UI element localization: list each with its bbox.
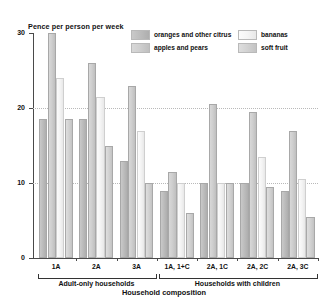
bar-2A-oranges-and-other-citrus [79,119,87,258]
bar-1A-1-C-bananas [177,183,185,258]
bar-2A-apples-and-pears [88,63,96,258]
bar-1A-oranges-and-other-citrus [39,119,47,258]
bar-3A-soft-fruit [145,183,153,258]
x-tick-3 [197,258,198,261]
bar-2A-3C-soft-fruit [306,217,314,258]
x-tick-4 [237,258,238,261]
bracket-1 [159,274,318,279]
bar-2A-1C-soft-fruit [226,183,234,258]
bar-1A-apples-and-pears [48,33,56,258]
bar-1A-1-C-oranges-and-other-citrus [160,191,168,259]
x-tick-label-2A-2C: 2A, 2C [237,263,277,270]
x-tick-5 [278,258,279,261]
bar-2A-2C-apples-and-pears [249,112,257,258]
bar-chart: Pence per person per week oranges and ot… [0,0,328,302]
y-tick-10 [29,183,33,184]
x-tick-label-2A-1C: 2A, 1C [197,263,237,270]
bracket-label-1: Households with children [159,280,316,287]
bar-3A-apples-and-pears [128,86,136,259]
bar-3A-bananas [137,131,145,259]
y-tick-label-0: 0 [9,254,25,261]
y-tick-label-10: 10 [9,179,25,186]
bar-1A-1-C-apples-and-pears [168,172,176,258]
y-tick-0 [29,258,33,259]
x-axis-title: Household composition [0,288,328,297]
x-tick-label-1A-1-C: 1A, 1+C [157,263,197,270]
bar-1A-1-C-soft-fruit [186,213,194,258]
y-axis-line [33,33,34,258]
x-tick-1 [117,258,118,261]
x-tick-label-2A: 2A [76,263,116,270]
gridline-20 [33,108,318,109]
x-tick-label-3A: 3A [117,263,157,270]
bar-1A-bananas [56,78,64,258]
bar-2A-soft-fruit [105,146,113,259]
bar-2A-2C-bananas [258,157,266,258]
bar-2A-2C-soft-fruit [266,187,274,258]
x-tick-label-2A-3C: 2A, 3C [278,263,318,270]
bar-2A-bananas [96,97,104,258]
bar-1A-soft-fruit [65,119,73,258]
bar-2A-3C-apples-and-pears [289,131,297,259]
bar-2A-2C-oranges-and-other-citrus [240,183,248,258]
bar-2A-1C-oranges-and-other-citrus [200,183,208,258]
x-tick-label-1A: 1A [36,263,76,270]
bar-3A-oranges-and-other-citrus [120,161,128,259]
bar-2A-3C-oranges-and-other-citrus [281,191,289,259]
y-axis-title: Pence per person per week [28,22,124,31]
y-tick-30 [29,33,33,34]
y-tick-label-30: 30 [9,29,25,36]
y-tick-label-20: 20 [9,104,25,111]
x-tick-2 [157,258,158,261]
bracket-label-0: Adult-only households [38,280,155,287]
y-tick-20 [29,108,33,109]
bar-2A-1C-apples-and-pears [209,104,217,258]
x-tick-0 [76,258,77,261]
plot-area [33,33,318,258]
bar-2A-1C-bananas [217,183,225,258]
x-tick-6 [318,258,319,261]
bar-2A-3C-bananas [298,179,306,258]
bracket-0 [38,274,157,279]
